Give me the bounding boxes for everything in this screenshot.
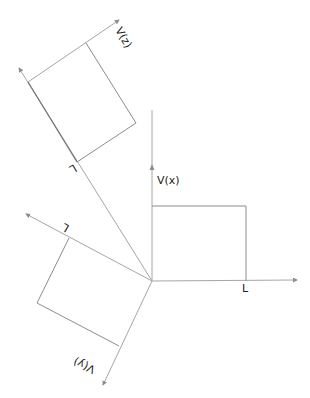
vz-label: V(z) [112, 25, 134, 50]
z-frame: V(z) L [19, 20, 152, 281]
y-frame: L V(y) [26, 214, 152, 385]
x-frame: V(x) L [150, 110, 298, 295]
x-L-label: L [242, 282, 249, 295]
vx-axis-arrow-icon [150, 164, 155, 170]
vy-label: V(y) [71, 355, 97, 376]
z-rectangle [77, 43, 136, 162]
z-rectangle-edge [28, 82, 77, 162]
y-L-label: L [59, 220, 72, 235]
x-rectangle [152, 206, 246, 281]
z-L-label: L [66, 161, 79, 176]
vx-label: V(x) [157, 174, 180, 187]
y-rectangle [37, 238, 119, 346]
vy-axis [103, 281, 152, 385]
y-axis [26, 214, 152, 281]
vz-axis [28, 20, 119, 82]
x-axis [152, 280, 297, 281]
rotated-axes-diagram: V(x) L V(z) L L V(y) [0, 0, 310, 398]
